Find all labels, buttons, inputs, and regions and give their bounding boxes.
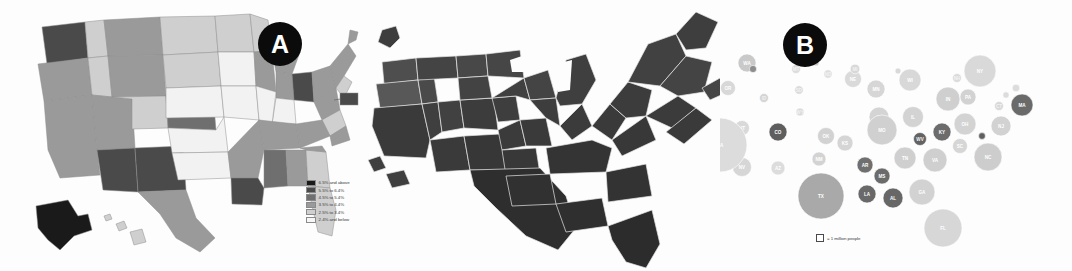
state-me [348, 30, 358, 44]
legend-item: 4.5% to 5.4% [306, 194, 350, 201]
bubble-az: AZ [771, 161, 785, 175]
bubble-label: MI [852, 67, 857, 72]
state-la [231, 178, 264, 205]
bubble-label: VA [932, 158, 939, 163]
cart-hi-2 [386, 170, 410, 188]
legend-item: 6.5% and above [306, 179, 350, 186]
legend-swatch [306, 187, 316, 193]
bubble-tx: TX [798, 173, 844, 219]
bubble-label: OR [725, 86, 733, 91]
state-oh [292, 72, 314, 102]
bubble-co: CO [769, 123, 787, 141]
legend-label: 2.5% to 3.4% [319, 210, 345, 215]
cart-co [460, 98, 498, 130]
state-ne [166, 86, 224, 118]
state-ms [264, 150, 288, 188]
bubble-ky: KY [933, 123, 951, 141]
legend-label: 3.5% to 4.4% [319, 202, 345, 207]
bubble-pa: PA [960, 89, 976, 105]
bubble-ny: NY [964, 55, 996, 87]
panel-c-bubble-svg: WAORIDMTNDSDWYUTCONVAZCANMTXOKKSNEMNIAMO… [720, 0, 1072, 271]
bubble-label: CO [775, 130, 782, 135]
bubble-sc: SC [953, 139, 968, 154]
legend-label: = 1 million people [827, 236, 860, 241]
bubble-id: ID [760, 94, 769, 103]
cart-mo [520, 118, 552, 146]
panel-b-legend: = 1 million people [816, 233, 860, 243]
legend-item: 5.5% to 6.4% [306, 186, 350, 193]
state-or [38, 58, 92, 101]
state-nd [160, 16, 218, 55]
state-nv [92, 95, 135, 150]
state-sd [163, 52, 221, 88]
legend-swatch [306, 180, 316, 186]
bubble-oh: OH [954, 113, 976, 135]
cart-ky-tn [546, 140, 612, 174]
bubble-ks: KS [837, 135, 853, 151]
bubble-ga: GA [909, 179, 935, 205]
cart-ia [492, 78, 530, 100]
cart-or [376, 80, 422, 108]
bubble-label: WI [907, 78, 913, 83]
bubble-ms: MS [874, 168, 890, 184]
bubble-label: TX [818, 194, 825, 199]
state-hi-3 [130, 229, 146, 245]
bubble-md [1012, 84, 1020, 92]
state-hi-1 [104, 214, 112, 221]
panel-b-cartogram-map: B = 1 million people [360, 0, 720, 271]
cart-mt [416, 56, 458, 80]
state-hi-2 [116, 221, 127, 231]
bubble-ct: CT [995, 102, 1004, 111]
cart-nd [456, 54, 488, 78]
cart-az [430, 136, 470, 172]
bubble-de [979, 133, 986, 140]
bubble-label: NH [954, 76, 961, 81]
bubble-label: WV [916, 137, 924, 142]
bubble-label: MS [879, 174, 886, 179]
cart-wa [382, 58, 418, 84]
state-wa [42, 22, 88, 64]
bubble-label: SC [957, 144, 964, 149]
legend-swatch [816, 234, 824, 242]
bubble-label: NE [850, 77, 856, 82]
bubble-label: SD [796, 88, 803, 93]
cart-ar-ms [506, 174, 556, 206]
three-panel-figure: A 6.5% and above 5.5% to 6.4% 4.5% to 5.… [0, 0, 1072, 271]
bubble-ri [1003, 92, 1009, 98]
bubble-label: MN [872, 87, 880, 92]
legend-swatch [306, 217, 316, 223]
legend-item: 3.5% to 4.4% [306, 201, 350, 208]
bubble-label: IL [911, 115, 915, 120]
cart-me-nh-vt [676, 12, 718, 50]
lake-erie [596, 78, 616, 100]
bubble-al: AL [883, 188, 903, 208]
panel-a-map-svg [0, 0, 360, 271]
bubble-label: NY [977, 69, 983, 74]
legend-label: 6.5% and above [319, 180, 350, 185]
cart-hi-1 [368, 156, 386, 172]
bubble-circle [979, 133, 986, 140]
panel-a-choropleth-map: A 6.5% and above 5.5% to 6.4% 4.5% to 5.… [0, 0, 360, 271]
state-mo [221, 86, 259, 120]
bubble-ma: MA [1011, 94, 1033, 116]
bubble-label: KY [939, 130, 945, 135]
bubble-label: WY [796, 110, 803, 115]
state-mn [215, 14, 254, 52]
cart-ak [378, 26, 400, 48]
panel-b-map-svg [360, 0, 720, 271]
panel-badge-b: B [783, 23, 827, 67]
legend-label: 4.5% to 5.4% [319, 195, 345, 200]
bubble-il: IL [903, 107, 924, 128]
legend-item: 2.5% to 3.4% [306, 209, 350, 216]
bubble-label: WA [743, 61, 751, 66]
bubble-label: MO [878, 128, 886, 133]
state-ar [228, 120, 264, 178]
bubble-label: FL [940, 226, 946, 231]
bubble-circle [895, 68, 901, 74]
lake-michigan [556, 60, 572, 92]
bubble-label: TN [902, 156, 909, 161]
bubble-label: NV [739, 165, 746, 170]
bubble-hi [895, 68, 901, 74]
bubble-ar: AR [857, 157, 873, 173]
legend-label: 5.5% to 6.4% [319, 188, 345, 193]
